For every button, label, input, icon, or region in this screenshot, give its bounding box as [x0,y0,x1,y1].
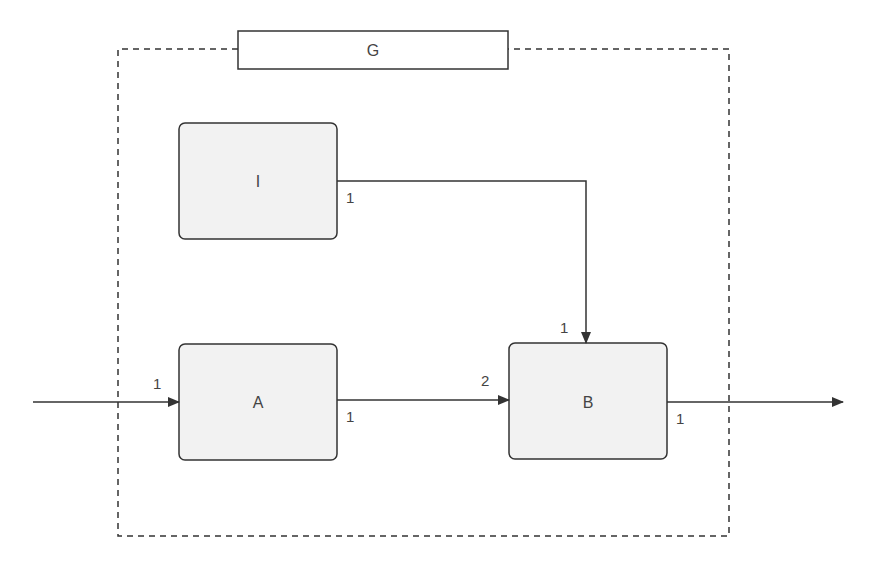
block-a-label: A [253,394,264,411]
block-a[interactable]: A [179,344,337,460]
group-boundary [118,49,729,536]
block-b[interactable]: B [509,343,667,459]
diagram-canvas: G I A B 1 1 1 1 2 1 [0,0,872,575]
block-i[interactable]: I [179,123,337,239]
port-label-b-in-2: 2 [481,372,489,389]
block-i-label: I [256,173,260,190]
port-label-a-out: 1 [346,408,354,425]
block-b-label: B [583,394,594,411]
port-label-b-out: 1 [676,410,684,427]
group-label: G [367,42,379,59]
connection-i-to-b[interactable] [337,181,586,343]
port-label-b-in-1: 1 [560,319,568,336]
port-label-a-in: 1 [153,375,161,392]
port-label-i-out: 1 [346,189,354,206]
group-label-box[interactable]: G [238,31,508,69]
